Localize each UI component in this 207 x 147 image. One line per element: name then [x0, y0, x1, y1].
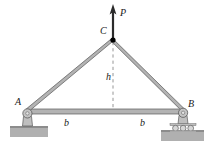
label-support-B: B [188, 98, 194, 109]
right-diagonal-member [111, 38, 185, 111]
label-support-A: A [14, 96, 22, 107]
apex-joint-dot [110, 37, 115, 42]
label-base-right-b: b [140, 117, 145, 128]
truss-figure: P C A B h b b [0, 0, 207, 147]
pin-support-left [23, 109, 33, 126]
bottom-chord-member [27, 109, 183, 114]
label-load-P: P [119, 7, 126, 18]
left-diagonal-member [26, 38, 114, 112]
ground-block-left [10, 126, 48, 137]
truss-diagram-canvas: P C A B h b b [0, 0, 207, 147]
label-apex-C: C [100, 25, 107, 36]
roller-wheels [173, 125, 194, 131]
label-base-left-b: b [64, 117, 69, 128]
label-height-h: h [106, 71, 111, 82]
load-arrow-P [110, 4, 117, 40]
